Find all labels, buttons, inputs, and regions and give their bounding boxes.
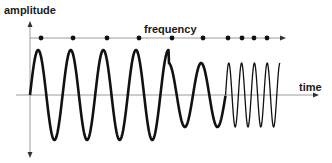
frequency-axis — [30, 36, 286, 41]
frequency-dot — [226, 36, 231, 41]
frequency-dot — [71, 36, 76, 41]
frequency-dot — [201, 36, 206, 41]
frequency-dot — [252, 36, 257, 41]
arrow-up-icon — [28, 21, 33, 27]
frequency-dot — [105, 36, 110, 41]
frequency-dot — [39, 36, 44, 41]
arrow-right-icon — [313, 93, 319, 98]
time-label: time — [299, 81, 322, 93]
frequency-dot — [137, 36, 142, 41]
amplitude-label: amplitude — [4, 4, 56, 16]
frequency-dot — [170, 36, 175, 41]
arrow-right-icon — [280, 36, 286, 41]
frequency-dot — [265, 36, 270, 41]
frequency-label: frequency — [144, 23, 197, 35]
waveform-diagram: amplitude frequency time — [0, 0, 332, 163]
arrow-down-icon — [28, 152, 33, 158]
frequency-dot — [240, 36, 245, 41]
